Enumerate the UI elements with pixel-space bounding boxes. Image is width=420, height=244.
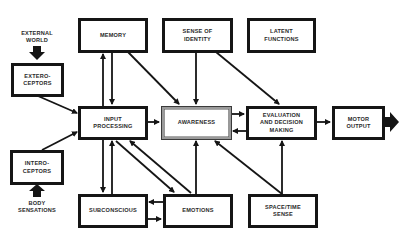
- arrow-spacetime-to-awareness: [215, 141, 282, 194]
- arrow-exteroceptors-to-input: [38, 96, 77, 113]
- body-sensations-block-arrow: [29, 184, 45, 197]
- node-space-time-sense[interactable]: SPACE/TIME SENSE: [248, 194, 318, 228]
- node-input-processing[interactable]: INPUT PROCESSING: [78, 106, 148, 140]
- node-awareness[interactable]: AWARENESS: [161, 106, 232, 140]
- node-latent-functions[interactable]: LATENT FUNCTIONS: [247, 18, 316, 53]
- motor-output-block-arrow: [384, 112, 399, 132]
- diagram-canvas: EXTERNAL WORLD BODY SENSATIONS MEMORY SE…: [0, 0, 420, 244]
- arrow-memory-to-awareness: [128, 52, 179, 104]
- body-sensations-label: BODY SENSATIONS: [6, 200, 68, 214]
- node-evaluation-decision-making[interactable]: EVALUATION AND DECISION MAKING: [246, 106, 317, 140]
- external-world-block-arrow: [29, 46, 45, 60]
- node-emotions[interactable]: EMOTIONS: [163, 194, 233, 228]
- node-interoceptors[interactable]: INTERO- CEPTORS: [10, 150, 64, 185]
- node-exteroceptors[interactable]: EXTERO- CEPTORS: [11, 63, 64, 97]
- arrow-identity-to-evaluation: [216, 52, 279, 104]
- node-motor-output[interactable]: MOTOR OUTPUT: [332, 106, 385, 140]
- node-memory[interactable]: MEMORY: [78, 18, 148, 53]
- external-world-label: EXTERNAL WORLD: [6, 30, 68, 44]
- arrow-input-to-emotions: [116, 141, 174, 192]
- node-sense-of-identity[interactable]: SENSE OF IDENTITY: [162, 18, 233, 53]
- node-subconscious[interactable]: SUBCONSCIOUS: [78, 194, 148, 228]
- arrow-emotions-to-input: [130, 141, 191, 193]
- arrow-interoceptors-to-input: [42, 132, 77, 150]
